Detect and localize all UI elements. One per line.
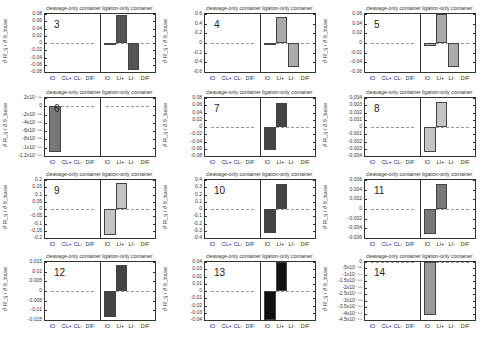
y-tick-mark bbox=[45, 238, 47, 239]
y-tick-mark bbox=[365, 149, 367, 150]
y-tick-label: 0.001 bbox=[332, 116, 362, 122]
left-subplot-title: cleavage-only container bbox=[46, 171, 101, 177]
y-tick-mark bbox=[205, 113, 207, 114]
zero-baseline bbox=[211, 127, 254, 128]
x-tick-label: DIF bbox=[460, 241, 469, 247]
zero-baseline bbox=[211, 43, 254, 44]
y-tick-mark bbox=[473, 62, 475, 63]
chart-panel-14: ∂ R_ij / ∂ θ_basecleavage-only container… bbox=[320, 250, 480, 334]
x-tick-label: DIF bbox=[300, 241, 309, 247]
y-tick-mark bbox=[45, 202, 47, 203]
plot-area bbox=[204, 13, 316, 73]
x-tick-label: DIF bbox=[245, 323, 254, 329]
y-tick-mark bbox=[473, 180, 475, 181]
subplot-divider bbox=[260, 14, 261, 72]
panel-number: 14 bbox=[374, 267, 385, 278]
y-tick-mark bbox=[473, 320, 475, 321]
y-tick-label: 0.003 bbox=[332, 101, 362, 107]
left-subplot-title: cleavage-only container bbox=[206, 89, 261, 95]
y-tick-mark bbox=[45, 21, 47, 22]
y-tick-mark bbox=[205, 24, 207, 25]
y-tick-mark bbox=[153, 281, 155, 282]
y-tick-mark bbox=[313, 156, 315, 157]
y-tick-mark bbox=[313, 298, 315, 299]
y-tick-mark bbox=[45, 272, 47, 273]
y-tick-label: -0.06 bbox=[172, 145, 202, 151]
y-tick-mark bbox=[313, 284, 315, 285]
x-tick-label: DIF bbox=[460, 323, 469, 329]
y-tick-mark bbox=[205, 306, 207, 307]
y-tick-mark bbox=[473, 24, 475, 25]
y-tick-mark bbox=[45, 262, 47, 263]
y-tick-mark bbox=[153, 301, 155, 302]
x-tick-label: IO bbox=[425, 75, 431, 81]
x-tick-label: IO bbox=[105, 241, 111, 247]
y-tick-mark bbox=[473, 53, 475, 54]
left-subplot-title: cleavage-only container bbox=[46, 253, 101, 259]
y-tick-mark bbox=[365, 228, 367, 229]
right-subplot-title: ligation-only container bbox=[262, 89, 312, 95]
y-tick-mark bbox=[205, 180, 207, 181]
y-tick-mark bbox=[365, 33, 367, 34]
chart-panel-8: ∂ R_ij / ∂ θ_basecleavage-only container… bbox=[320, 86, 480, 170]
x-tick-label: CL+ bbox=[222, 75, 232, 81]
subplot-divider bbox=[100, 98, 101, 156]
panel-number: 6 bbox=[54, 103, 60, 114]
y-tick-label: -0.08 bbox=[172, 152, 202, 158]
y-tick-mark bbox=[153, 14, 155, 15]
y-tick-mark bbox=[153, 106, 155, 107]
x-tick-label: DIF bbox=[140, 159, 149, 165]
chart-panel-9: ∂ R_ij / ∂ θ_basecleavage-only container… bbox=[0, 168, 160, 252]
y-tick-label: -0.04 bbox=[12, 54, 42, 60]
x-tick-label: IO bbox=[50, 323, 56, 329]
y-tick-label: 0.01 bbox=[12, 268, 42, 274]
y-tick-mark bbox=[205, 262, 207, 263]
y-tick-mark bbox=[365, 209, 367, 210]
bar-io bbox=[264, 127, 276, 150]
right-subplot-title: ligation-only container bbox=[422, 171, 472, 177]
y-tick-label: -0.3 bbox=[172, 227, 202, 233]
zero-baseline bbox=[211, 209, 254, 210]
zero-baseline bbox=[211, 291, 254, 292]
y-tick-mark bbox=[473, 105, 475, 106]
y-tick-mark bbox=[205, 313, 207, 314]
y-tick-mark bbox=[365, 199, 367, 200]
right-subplot-title: ligation-only container bbox=[262, 5, 312, 11]
y-tick-label: -0.1 bbox=[172, 212, 202, 218]
x-tick-label: DIF bbox=[405, 159, 414, 165]
y-tick-label: 0.004 bbox=[332, 186, 362, 192]
y-tick-mark bbox=[365, 288, 367, 289]
y-tick-mark bbox=[473, 113, 475, 114]
y-tick-mark bbox=[365, 262, 367, 263]
subplot-divider bbox=[420, 180, 421, 238]
bar-liplus bbox=[116, 265, 128, 291]
x-tick-label: DIF bbox=[405, 75, 414, 81]
y-tick-label: -2x10⁻⁸⁸ bbox=[332, 284, 362, 290]
subplot-divider bbox=[420, 98, 421, 156]
x-tick-label: DIF bbox=[300, 323, 309, 329]
y-tick-label: 0.005 bbox=[12, 277, 42, 283]
zero-baseline bbox=[51, 209, 94, 210]
x-tick-label: CL- bbox=[73, 241, 82, 247]
y-tick-mark bbox=[313, 14, 315, 15]
panel-number: 5 bbox=[374, 19, 380, 30]
subplot-divider bbox=[100, 14, 101, 72]
y-tick-label: 0.15 bbox=[12, 183, 42, 189]
x-tick-label: DIF bbox=[245, 241, 254, 247]
y-tick-mark bbox=[45, 180, 47, 181]
x-tick-label: LI+ bbox=[437, 323, 445, 329]
y-tick-mark bbox=[313, 216, 315, 217]
x-tick-label: LI- bbox=[128, 75, 134, 81]
x-tick-label: IO bbox=[210, 323, 216, 329]
left-subplot-title: cleavage-only container bbox=[206, 5, 261, 11]
y-tick-label: 0.04 bbox=[172, 258, 202, 264]
left-subplot-title: cleavage-only container bbox=[206, 171, 261, 177]
y-tick-mark bbox=[45, 156, 47, 157]
y-tick-label: -0.08 bbox=[12, 68, 42, 74]
zero-baseline bbox=[51, 291, 94, 292]
subplot-divider bbox=[100, 262, 101, 320]
y-tick-label: -3.5x10⁻⁸⁸ bbox=[332, 303, 362, 309]
right-subplot-title: ligation-only container bbox=[102, 253, 152, 259]
y-tick-label: 0.02 bbox=[332, 29, 362, 35]
x-tick-label: CL- bbox=[73, 323, 82, 329]
